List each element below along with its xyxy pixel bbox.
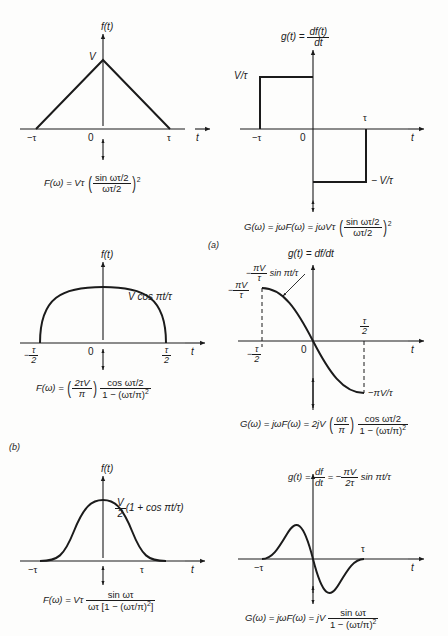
eq-b-right-lhs: G(ω) = jωF(ω) = 2jV [240,418,326,429]
xtick-neg-halftau-b-left: −τ2 [24,346,38,365]
axis-label-c-tail: sin πt/τ [361,471,391,482]
eq-a-right-lhs: G(ω) = jωF(ω) = jωVτ [244,221,335,232]
axis-label-c-frac2: πV2τ [341,467,358,487]
xtick-neg-tau-a-left: −τ [27,133,36,143]
curve-label-c-tail: (1 + cos πt/τ) [126,502,184,513]
axis-label-t-b-right: t [411,345,414,355]
xtick-pos-frac-b-right: τ2 [360,317,369,336]
paren-close-b2: ) [350,415,354,433]
axis-label-gt-a-right: g(t) = df(t)dt [281,27,329,48]
xtick-pos-tau-c-right: τ [361,544,365,554]
paren-open-b2: ( [329,415,333,433]
curve-label-c-left: V2(1 + cos πt/τ) [115,498,184,519]
axis-label-t-a-left: t [196,133,199,143]
value-label-b-bottom: −πV/τ [368,388,392,398]
panel-label-b: (b) [9,443,20,452]
xtick-pos-halftau-b-right: τ2 [360,317,369,336]
plot-b-right [238,265,424,410]
equation-c-right: G(ω) = jωF(ω) = jV sin ωτ1 − (ωτ/π)2 [245,608,378,629]
axis-label-t-a-right: t [411,133,414,143]
value-label-b-frac: πVτ [233,281,249,300]
value-label-V-a: V [89,52,96,62]
axis-label-c-lhs: g(t) = [288,471,310,482]
curve-label-b-right: −πVτ sin πt/τ [246,264,298,283]
curve-label-b-frac: πVτ [251,264,267,283]
axis-label-c-frac1: dfdt [313,467,325,487]
eq-c-left-lhs: F(ω) = Vτ [43,594,83,605]
axis-label-ft-a: f(t) [101,22,113,32]
plot-a-left [20,34,210,160]
curve-label-b-tail: sin πt/τ [270,268,298,278]
eq-b-right-coef: ωτπ [334,414,349,434]
axis-label-ft-c: f(t) [101,464,113,474]
eq-a-left-coef: Vτ [74,177,84,188]
eq-c-right-den-exp: 2 [373,618,377,625]
equation-a-left: F(ω) = Vτ (sin ωτ/2ωτ/2)2 [44,173,140,193]
eq-b-right-den-exp: 2 [402,424,406,431]
eq-a-left-exp: 2 [137,176,141,183]
axis-label-gt-a-main: g(t) = [281,31,305,42]
eq-a-right-frac: sin ωτ/2ωτ/2 [344,217,382,237]
eq-a-left-lhs: F(ω) = [44,177,72,188]
paren-open-a2: ( [339,218,343,236]
origin-label-b-right: 0 [301,345,307,355]
eq-c-left-frac: sin ωτωτ [1 − (ωτ/π)2] [86,590,155,611]
axis-label-t-c-left: t [191,565,194,575]
axis-label-t-b-left: t [191,347,194,357]
paren-open-a: ( [88,174,92,192]
value-label-b-right-axis: −πVτ [228,281,249,300]
eq-b-left-lhs: F(ω) = [36,382,64,393]
figure-root: f(t) t 0 −τ τ V F(ω) = Vτ (sin ωτ/2ωτ/2)… [0,0,448,636]
eq-b-left-frac: cos ωτ/21 − (ωτ/π)2 [100,378,150,399]
eq-c-right-frac: sin ωτ1 − (ωτ/π)2 [328,608,378,629]
eq-a-left-frac: sin ωτ/2ωτ/2 [93,173,131,193]
paren-open-b: ( [68,379,72,397]
axis-label-gt-b-right: g(t) = df/dt [288,249,334,259]
value-label-Vtau-pos: V/τ [234,71,247,81]
plot-a-right [240,50,424,212]
xtick-pos-tau-a-left: τ [167,133,171,143]
eq-a-right-exp: 2 [388,220,392,227]
eq-c-right-den-wrap: 1 − (ωτ/π)2 [328,619,378,629]
origin-label-a-left: 0 [88,133,94,143]
xtick-neg-frac-b-right: τ2 [252,345,261,364]
xtick-pos-tau-a-right: τ [363,113,367,123]
equation-c-left: F(ω) = Vτ sin ωτωτ [1 − (ωτ/π)2] [43,590,155,611]
eq-b-right-den-wrap: 1 − (ωτ/π)2 [358,425,408,435]
axis-label-c-mid: = − [328,471,342,482]
eq-b-left-den-exp: 2 [145,388,149,395]
eq-c-left-den-tail: ] [151,600,154,611]
equation-b-left: F(ω) = (2τVπ) cos ωτ/21 − (ωτ/π)2 [36,378,151,399]
xtick-neg-tau-c-right: −τ [254,563,263,573]
equation-a-right: G(ω) = jωF(ω) = jωVτ (sin ωτ/2ωτ/2)2 [244,217,391,237]
panel-label-a: (a) [208,241,219,250]
axis-label-t-c-right: t [411,563,414,573]
paren-close-b: ) [93,379,97,397]
plot-b-left [20,262,205,370]
axis-label-ft-b: f(t) [101,250,113,260]
plot-c-right [238,474,424,604]
eq-b-left-coef: 2τVπ [72,378,91,398]
curve-label-b-left: V cos πt/τ [128,292,172,302]
eq-c-right-lhs: G(ω) = jωF(ω) = jV [245,612,325,623]
plot-c-left [20,476,205,585]
eq-b-left-den-wrap: 1 − (ωτ/π)2 [100,389,150,399]
paren-close-a2: ) [383,218,387,236]
eq-b-right-frac: cos ωτ/21 − (ωτ/π)2 [358,414,408,435]
xtick-neg-tau-c-left: −τ [28,565,37,575]
eq-c-left-den-wrap: ωτ [1 − (ωτ/π)2] [86,601,155,611]
xtick-pos-tau-c-left: τ [140,565,144,575]
origin-label-b-left: 0 [88,347,94,357]
equation-b-right: G(ω) = jωF(ω) = 2jV (ωτπ) cos ωτ/21 − (ω… [240,414,408,435]
curve-label-c-frac: V2 [115,498,126,519]
xtick-pos-halftau-b-left: τ2 [162,346,171,365]
paren-close-a: ) [132,174,136,192]
xtick-neg-tau-a-right: −τ [252,133,261,143]
axis-label-gt-a-frac: df(t)dt [307,27,329,48]
xtick-pos-frac-b-left: τ2 [162,346,171,365]
axis-label-gt-c-right: g(t) = dfdt = −πV2τ sin πt/τ [288,467,391,487]
xtick-neg-frac-b-left: τ2 [29,346,38,365]
figure-vector-layer [0,0,448,636]
value-label-Vtau-neg: − V/τ [371,176,393,186]
origin-label-a-right: 0 [300,133,306,143]
